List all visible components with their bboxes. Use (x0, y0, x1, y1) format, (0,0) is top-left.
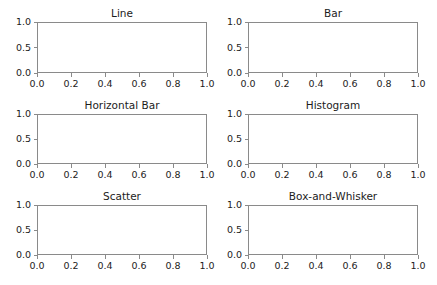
y-tick-label: 0.5 (16, 133, 31, 145)
subplot-title: Box-and-Whisker (248, 190, 418, 203)
x-tick-mark (37, 255, 38, 259)
x-tick-label: 0.0 (23, 169, 51, 181)
y-tick-mark (34, 139, 38, 140)
y-tick-label: 1.0 (227, 108, 242, 120)
subplot-2: Bar0.00.51.00.00.20.40.60.81.0 (248, 22, 418, 73)
y-tick-mark (34, 205, 38, 206)
subplot-title: Scatter (37, 190, 207, 203)
y-tick-mark (245, 114, 249, 115)
x-tick-label: 0.6 (336, 78, 364, 90)
x-tick-label: 1.0 (193, 78, 221, 90)
x-tick-mark (384, 164, 385, 168)
x-tick-mark (173, 255, 174, 259)
y-tick-label: 1.0 (227, 199, 242, 211)
x-tick-mark (105, 255, 106, 259)
x-tick-label: 0.4 (91, 78, 119, 90)
x-tick-label: 1.0 (404, 169, 432, 181)
y-tick-mark (245, 205, 249, 206)
subplot-title: Bar (248, 7, 418, 20)
x-tick-label: 0.8 (159, 78, 187, 90)
x-tick-mark (418, 73, 419, 77)
x-tick-label: 0.2 (57, 169, 85, 181)
x-tick-label: 0.8 (370, 260, 398, 272)
y-tick-mark (245, 139, 249, 140)
x-tick-label: 0.4 (91, 169, 119, 181)
x-tick-label: 1.0 (193, 169, 221, 181)
subplot-title: Line (37, 7, 207, 20)
x-tick-mark (37, 164, 38, 168)
x-tick-mark (37, 73, 38, 77)
y-tick-label: 1.0 (16, 108, 31, 120)
x-tick-mark (350, 73, 351, 77)
x-tick-label: 0.8 (370, 169, 398, 181)
y-tick-mark (34, 114, 38, 115)
x-tick-label: 0.4 (302, 260, 330, 272)
y-tick-label: 0.5 (227, 133, 242, 145)
x-tick-label: 0.8 (159, 260, 187, 272)
x-tick-label: 0.2 (57, 260, 85, 272)
subplot-5: Scatter0.00.51.00.00.20.40.60.81.0 (37, 205, 207, 255)
y-tick-label: 1.0 (16, 199, 31, 211)
x-tick-mark (71, 73, 72, 77)
x-tick-mark (173, 73, 174, 77)
x-tick-label: 0.2 (268, 78, 296, 90)
x-tick-label: 0.0 (234, 78, 262, 90)
x-tick-mark (316, 164, 317, 168)
x-tick-label: 0.4 (302, 78, 330, 90)
x-tick-label: 0.4 (91, 260, 119, 272)
x-tick-mark (71, 164, 72, 168)
x-tick-label: 0.6 (125, 260, 153, 272)
x-tick-mark (139, 255, 140, 259)
axes-frame (37, 205, 207, 255)
y-tick-mark (245, 47, 249, 48)
x-tick-label: 0.6 (336, 260, 364, 272)
subplot-title: Histogram (248, 99, 418, 112)
x-tick-mark (207, 164, 208, 168)
x-tick-label: 0.0 (23, 78, 51, 90)
y-tick-mark (245, 22, 249, 23)
axes-frame (248, 205, 418, 255)
x-tick-mark (282, 255, 283, 259)
x-tick-label: 0.8 (370, 78, 398, 90)
subplot-3: Horizontal Bar0.00.51.00.00.20.40.60.81.… (37, 114, 207, 164)
x-tick-mark (139, 73, 140, 77)
x-tick-mark (105, 164, 106, 168)
y-tick-label: 0.5 (16, 224, 31, 236)
subplot-title: Horizontal Bar (37, 99, 207, 112)
x-tick-mark (316, 73, 317, 77)
subplot-6: Box-and-Whisker0.00.51.00.00.20.40.60.81… (248, 205, 418, 255)
x-tick-label: 0.2 (57, 78, 85, 90)
x-tick-mark (139, 164, 140, 168)
x-tick-mark (384, 255, 385, 259)
axes-frame (248, 114, 418, 164)
y-tick-label: 0.5 (16, 42, 31, 54)
x-tick-mark (71, 255, 72, 259)
y-tick-label: 0.5 (227, 42, 242, 54)
x-tick-mark (207, 255, 208, 259)
subplot-4: Histogram0.00.51.00.00.20.40.60.81.0 (248, 114, 418, 164)
x-tick-mark (282, 73, 283, 77)
x-tick-label: 0.6 (125, 169, 153, 181)
y-tick-mark (34, 230, 38, 231)
axes-frame (37, 22, 207, 73)
y-tick-mark (34, 47, 38, 48)
x-tick-label: 0.4 (302, 169, 330, 181)
subplot-1: Line0.00.51.00.00.20.40.60.81.0 (37, 22, 207, 73)
x-tick-mark (316, 255, 317, 259)
x-tick-mark (248, 255, 249, 259)
x-tick-label: 0.0 (234, 260, 262, 272)
y-tick-mark (245, 230, 249, 231)
x-tick-mark (384, 73, 385, 77)
x-tick-label: 0.6 (336, 169, 364, 181)
x-tick-mark (282, 164, 283, 168)
x-tick-label: 0.8 (159, 169, 187, 181)
y-tick-label: 0.5 (227, 224, 242, 236)
x-tick-label: 0.2 (268, 260, 296, 272)
axes-frame (248, 22, 418, 73)
x-tick-label: 0.0 (234, 169, 262, 181)
x-tick-mark (207, 73, 208, 77)
matplotlib-figure: Line0.00.51.00.00.20.40.60.81.0Bar0.00.5… (0, 0, 437, 285)
x-tick-mark (173, 164, 174, 168)
x-tick-mark (248, 73, 249, 77)
x-tick-label: 0.6 (125, 78, 153, 90)
